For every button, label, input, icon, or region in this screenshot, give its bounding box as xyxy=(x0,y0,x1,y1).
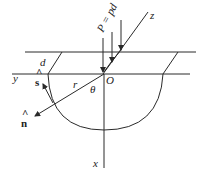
left-edge-line xyxy=(48,52,62,74)
x-axis-label: x xyxy=(92,157,98,169)
half-space-diagram: z y x O d r θ ^ s ^ n P = pd xyxy=(0,0,206,180)
normal-vector-label: n xyxy=(21,117,27,129)
load-label: P = pd xyxy=(94,1,120,35)
radius-label: r xyxy=(73,78,78,90)
right-edge-line xyxy=(163,52,178,74)
angle-label: θ xyxy=(90,83,96,95)
z-axis-label: z xyxy=(149,9,155,21)
origin-label: O xyxy=(106,74,114,86)
y-axis-label: y xyxy=(12,72,18,84)
tangent-vector-arrow xyxy=(43,84,53,103)
tangent-vector-label: s xyxy=(35,76,40,88)
normal-vector-arrow xyxy=(35,74,104,116)
